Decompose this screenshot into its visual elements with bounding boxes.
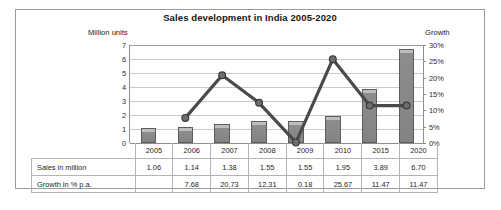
table-corner-cell xyxy=(32,143,136,159)
table-cell: 7.68 xyxy=(173,176,211,193)
left-axis-tick-label: 4 xyxy=(110,83,126,92)
growth-line-series xyxy=(130,45,425,143)
plot-area: 01234567 0%5%10%15%20%25%30% xyxy=(129,45,424,143)
table-cell xyxy=(135,176,173,193)
column-header: 2007 xyxy=(211,143,249,159)
right-axis-tick-label: 20% xyxy=(429,73,444,82)
left-axis-title: Million units xyxy=(88,28,128,37)
chart-title: Sales development in India 2005-2020 xyxy=(15,12,485,23)
column-header: 2008 xyxy=(248,143,286,159)
table-row: Growth in % p.a.7.6820.7312.310.1825.671… xyxy=(32,176,438,193)
table-cell: 12.31 xyxy=(248,176,286,193)
line-marker xyxy=(403,102,410,109)
row-label: Growth in % p.a. xyxy=(32,176,136,193)
column-header: 2010 xyxy=(324,143,362,159)
left-axis-tick-label: 7 xyxy=(110,41,126,50)
table-cell: 1.55 xyxy=(286,159,324,176)
column-header: 2020 xyxy=(400,143,438,159)
row-label: Sales in million xyxy=(32,159,136,176)
table-cell: 11.47 xyxy=(362,176,400,193)
line-marker xyxy=(329,56,336,63)
table-cell: 25.67 xyxy=(324,176,362,193)
table-cell: 1.95 xyxy=(324,159,362,176)
right-axis-tick-label: 15% xyxy=(429,90,444,99)
table-header-row: 20052006200720082009201020152020 xyxy=(32,143,438,159)
table-row: Sales in million1.061.141.381.551.551.95… xyxy=(32,159,438,176)
table-cell: 1.14 xyxy=(173,159,211,176)
right-axis-tick-label: 10% xyxy=(429,106,444,115)
left-axis-tick-label: 1 xyxy=(110,125,126,134)
data-table: 20052006200720082009201020152020Sales in… xyxy=(31,143,438,193)
line-marker xyxy=(182,115,189,122)
table-cell: 11.47 xyxy=(400,176,438,193)
column-header: 2006 xyxy=(173,143,211,159)
growth-line xyxy=(185,59,406,142)
table-cell: 1.38 xyxy=(211,159,249,176)
line-marker xyxy=(219,72,226,79)
left-axis-tick-label: 5 xyxy=(110,69,126,78)
column-header: 2009 xyxy=(286,143,324,159)
data-table-wrap: 20052006200720082009201020152020Sales in… xyxy=(31,143,424,193)
right-axis-title: Growth xyxy=(425,28,449,37)
right-axis-tick-label: 25% xyxy=(429,57,444,66)
column-header: 2015 xyxy=(362,143,400,159)
table-cell: 20.73 xyxy=(211,176,249,193)
right-axis-tick-label: 5% xyxy=(429,122,440,131)
table-cell: 1.06 xyxy=(135,159,173,176)
left-axis-tick-label: 2 xyxy=(110,111,126,120)
table-cell: 0.18 xyxy=(286,176,324,193)
table-cell: 6.70 xyxy=(400,159,438,176)
column-header: 2005 xyxy=(135,143,173,159)
left-axis-tick-label: 3 xyxy=(110,97,126,106)
table-cell: 1.55 xyxy=(248,159,286,176)
line-marker xyxy=(366,102,373,109)
table-cell: 3.89 xyxy=(362,159,400,176)
right-axis-tick-label: 30% xyxy=(429,41,444,50)
left-axis-tick-label: 6 xyxy=(110,55,126,64)
chart-screenshot: Sales development in India 2005-2020 Mil… xyxy=(0,0,501,210)
line-marker xyxy=(256,99,263,106)
